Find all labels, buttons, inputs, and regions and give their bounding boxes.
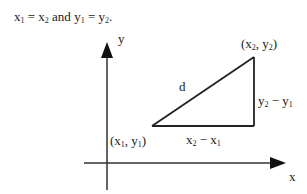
y-axis-arrowhead-icon bbox=[101, 42, 113, 58]
point-1-label: (x1, y1) bbox=[110, 134, 146, 147]
y-axis-label: y bbox=[118, 32, 125, 45]
hypotenuse-d bbox=[152, 57, 254, 126]
horizontal-leg-label: x2 − x1 bbox=[186, 133, 221, 146]
hypotenuse-label: d bbox=[179, 80, 186, 93]
x-axis-arrowhead-icon bbox=[270, 157, 286, 169]
vertical-leg-label: y2 − y1 bbox=[258, 94, 293, 107]
point-2-label: (x2, y2) bbox=[241, 37, 277, 50]
x-axis-label: x bbox=[289, 170, 296, 183]
